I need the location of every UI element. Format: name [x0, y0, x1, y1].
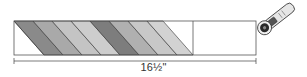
rotary-cutter-icon [255, 0, 298, 38]
dimension-label: 16½" [0, 61, 307, 73]
diagonal-stripes [14, 21, 193, 55]
